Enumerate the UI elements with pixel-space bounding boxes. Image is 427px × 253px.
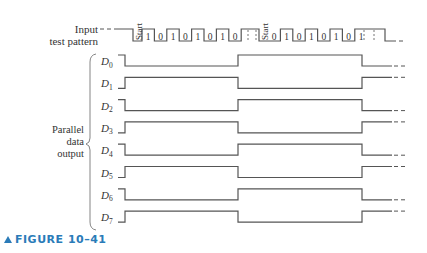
bit-label-0-0: 1 <box>146 32 151 42</box>
output-signal-d7 <box>118 211 392 222</box>
start-label-0: Start <box>134 23 144 40</box>
output-signal-d0 <box>118 55 392 66</box>
parallel-data-output-label: Parallel data output <box>52 124 84 159</box>
input-label-line1: Input <box>75 23 98 35</box>
output-label-d4: D4 <box>100 144 113 159</box>
bit-label-0-7: 0 <box>233 32 238 42</box>
output-label-d7: D7 <box>100 211 113 226</box>
input-waveform: Start10101010Start01010101 <box>100 23 406 42</box>
output-signal-d1 <box>118 77 392 88</box>
output-row-d5: D5 <box>100 167 406 182</box>
output-signal-d3 <box>118 122 392 133</box>
group-label-line3: output <box>57 148 84 159</box>
output-row-d7: D7 <box>100 211 406 226</box>
output-label-d1: D1 <box>100 77 113 92</box>
brace <box>86 54 96 230</box>
output-label-d6: D6 <box>100 189 113 204</box>
bit-label-1-4: 0 <box>321 32 326 42</box>
bit-label-0-3: 0 <box>183 32 188 42</box>
output-signal-d5 <box>118 167 392 178</box>
bit-label-0-5: 0 <box>208 32 213 42</box>
group-label-line1: Parallel <box>52 124 84 135</box>
figure-caption: FIGURE 10–41 <box>4 233 107 246</box>
output-signal-d4 <box>118 144 392 155</box>
figure-caption-text: FIGURE 10–41 <box>15 233 107 246</box>
start-label-1: Start <box>260 23 270 40</box>
bit-label-1-5: 1 <box>334 32 339 42</box>
bit-label-0-2: 1 <box>171 32 176 42</box>
bit-label-1-0: 0 <box>272 32 277 42</box>
output-label-d0: D0 <box>100 55 113 70</box>
output-row-d3: D3 <box>100 122 406 137</box>
output-row-d6: D6 <box>100 189 406 204</box>
output-signal-d6 <box>118 189 392 200</box>
group-label-line2: data <box>67 136 85 147</box>
output-signal-d2 <box>118 100 392 111</box>
bit-label-0-6: 1 <box>220 32 225 42</box>
bit-label-1-3: 1 <box>309 32 314 42</box>
output-label-d2: D2 <box>100 100 113 115</box>
output-label-d5: D5 <box>100 167 113 182</box>
bit-label-1-2: 0 <box>297 32 302 42</box>
output-row-d0: D0 <box>100 55 406 70</box>
output-row-d2: D2 <box>100 100 406 115</box>
output-row-d1: D1 <box>100 77 406 92</box>
input-label-line2: test pattern <box>49 35 98 47</box>
triangle-icon <box>4 236 12 243</box>
output-row-d4: D4 <box>100 144 406 159</box>
bit-label-0-4: 1 <box>195 32 200 42</box>
bit-label-1-6: 0 <box>346 32 351 42</box>
output-label-d3: D3 <box>100 122 113 137</box>
bit-label-0-1: 0 <box>158 32 163 42</box>
bit-label-1-1: 1 <box>284 32 289 42</box>
timing-diagram: Input test pattern Start10101010Start010… <box>0 0 427 253</box>
bit-label-1-7: 1 <box>359 32 364 42</box>
